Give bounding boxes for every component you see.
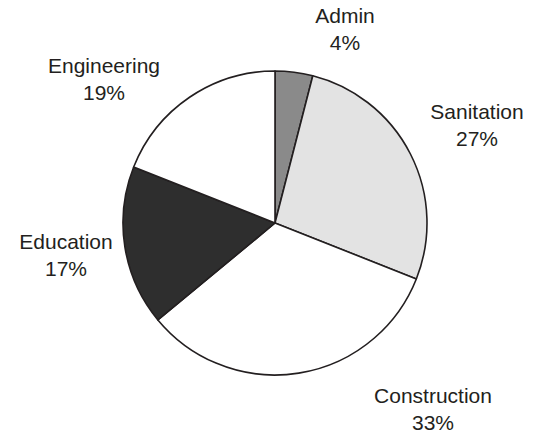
pie-label-admin-value: 4% bbox=[265, 29, 425, 56]
pie-label-education: Education 17% bbox=[2, 228, 130, 283]
pie-label-education-value: 17% bbox=[2, 255, 130, 282]
pie-label-sanitation-name: Sanitation bbox=[416, 98, 538, 125]
pie-label-engineering-value: 19% bbox=[28, 79, 180, 106]
pie-slice-group bbox=[123, 71, 427, 375]
pie-label-engineering: Engineering 19% bbox=[28, 52, 180, 107]
pie-label-engineering-name: Engineering bbox=[28, 52, 180, 79]
pie-label-admin-name: Admin bbox=[265, 2, 425, 29]
pie-label-admin: Admin 4% bbox=[265, 2, 425, 57]
pie-label-sanitation-value: 27% bbox=[416, 125, 538, 152]
pie-label-education-name: Education bbox=[2, 228, 130, 255]
pie-label-sanitation: Sanitation 27% bbox=[416, 98, 538, 153]
pie-label-construction-name: Construction bbox=[348, 382, 518, 409]
pie-label-construction-value: 33% bbox=[348, 409, 518, 436]
pie-chart-figure: Admin 4% Sanitation 27% Construction 33%… bbox=[0, 0, 538, 446]
pie-label-construction: Construction 33% bbox=[348, 382, 518, 437]
